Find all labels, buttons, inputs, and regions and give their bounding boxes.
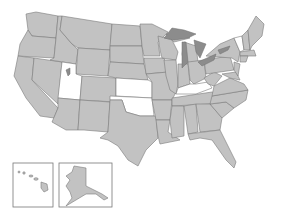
state-maine[interactable] (248, 16, 264, 50)
hawaii[interactable] (18, 171, 48, 192)
lake-superior (164, 28, 196, 40)
state-new-mexico[interactable] (78, 100, 110, 132)
state-nebraska[interactable] (108, 62, 148, 80)
state-connecticut[interactable] (240, 56, 248, 62)
alaska[interactable] (66, 166, 108, 206)
state-florida[interactable] (188, 130, 236, 168)
state-kansas[interactable] (116, 78, 152, 98)
state-arizona[interactable] (52, 98, 80, 130)
state-south-dakota[interactable] (110, 46, 144, 64)
us-states-map (0, 0, 288, 218)
state-mississippi[interactable] (170, 106, 184, 138)
state-wyoming[interactable] (76, 48, 110, 76)
state-alabama[interactable] (184, 104, 198, 134)
state-north-dakota[interactable] (110, 24, 142, 46)
